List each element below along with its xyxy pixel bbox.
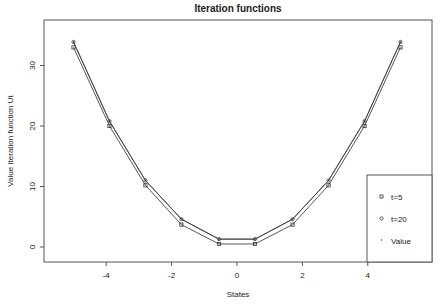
legend-label-t5: t=5 [391, 193, 403, 202]
data-point [181, 219, 182, 220]
legend-label-value: Value [391, 237, 411, 246]
x-tick-label: -2 [168, 271, 176, 280]
series-line [74, 42, 401, 239]
legend: t=5 t=20 Value [367, 175, 432, 262]
data-point [328, 180, 329, 181]
data-point [400, 41, 401, 42]
data-point [218, 239, 219, 240]
data-point [109, 121, 110, 122]
y-axis-label: Value Iteration function Ut [6, 94, 15, 186]
legend-label-t20: t=20 [391, 215, 407, 224]
data-point [145, 180, 146, 181]
y-tick-label: 20 [28, 121, 37, 130]
series-line [74, 47, 401, 244]
x-axis-label: States [227, 290, 250, 299]
data-point [364, 121, 365, 122]
chart: Iteration functions -4-2024 0102030 Stat… [0, 0, 444, 304]
chart-title: Iteration functions [194, 3, 282, 14]
x-tick-label: -4 [103, 271, 111, 280]
y-tick-label: 10 [28, 182, 37, 191]
series-lines [72, 40, 402, 245]
series-line [74, 42, 401, 239]
data-point [254, 239, 255, 240]
y-tick-label: 30 [28, 61, 37, 70]
dot-marker-icon [381, 239, 382, 240]
x-axis: -4-2024 [103, 262, 371, 280]
x-tick-label: 2 [300, 271, 305, 280]
x-tick-label: 0 [235, 271, 240, 280]
y-axis: 0102030 [28, 61, 44, 250]
data-point [292, 219, 293, 220]
y-tick-label: 0 [28, 244, 37, 249]
data-point [73, 41, 74, 42]
x-tick-label: 4 [366, 271, 371, 280]
